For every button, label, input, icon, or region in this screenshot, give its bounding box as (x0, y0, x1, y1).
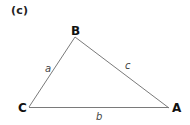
vertex-a-label: A (172, 101, 182, 115)
side-a-label: a (45, 63, 51, 74)
side-c-line (75, 37, 169, 108)
vertex-c-label: C (18, 101, 27, 115)
side-c-label: c (125, 60, 131, 71)
side-a-line (29, 37, 75, 107)
triangle-diagram: B C A a c b (0, 0, 190, 125)
side-b-label: b (96, 111, 102, 122)
vertex-b-label: B (71, 24, 80, 38)
